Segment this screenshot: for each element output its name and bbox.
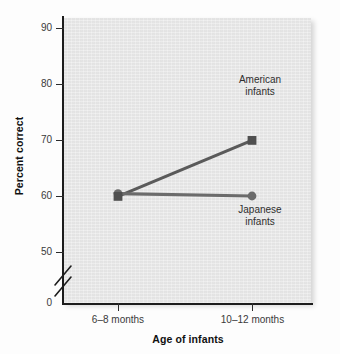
x-tick-6-8-months bbox=[118, 303, 119, 311]
series-label-japanese-line1: Japanese bbox=[218, 204, 302, 216]
series-label-japanese-line2: infants bbox=[218, 216, 302, 228]
series-label-american-line2: infants bbox=[218, 86, 302, 98]
y-tick-label-0: 0 bbox=[12, 298, 52, 308]
y-axis-title: Percent correct bbox=[13, 91, 25, 221]
y-tick-60 bbox=[56, 196, 64, 197]
y-tick-70 bbox=[56, 140, 64, 141]
y-tick-50 bbox=[56, 252, 64, 253]
chart-figure: 90 80 70 60 50 0 6–8 months 10–12 months… bbox=[0, 0, 340, 354]
series-label-japanese-infants: Japanese infants bbox=[218, 204, 302, 228]
y-tick-90 bbox=[56, 28, 64, 29]
series-label-american-line1: American bbox=[218, 74, 302, 86]
x-axis-title: Age of infants bbox=[63, 333, 313, 345]
series-label-american-infants: American infants bbox=[218, 74, 302, 98]
x-axis-line bbox=[62, 303, 313, 305]
x-tick-label-10-12-months: 10–12 months bbox=[200, 314, 305, 325]
y-tick-label-50: 50 bbox=[12, 247, 52, 257]
y-tick-label-90: 90 bbox=[12, 23, 52, 33]
x-tick-label-6-8-months: 6–8 months bbox=[68, 314, 168, 325]
y-tick-label-80: 80 bbox=[12, 79, 52, 89]
y-axis-line bbox=[62, 16, 64, 305]
y-tick-80 bbox=[56, 84, 64, 85]
x-tick-10-12-months bbox=[252, 303, 253, 311]
plot-area bbox=[63, 18, 311, 303]
